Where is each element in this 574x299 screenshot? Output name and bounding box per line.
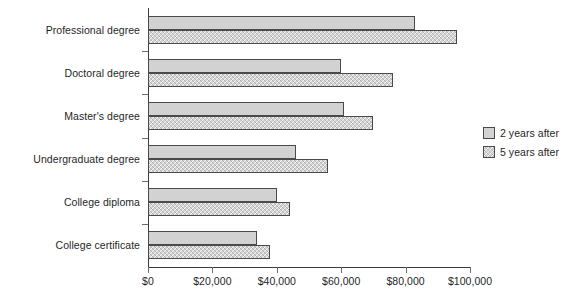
x-axis-label: $100,000 [448, 275, 492, 287]
bar[interactable] [148, 102, 344, 116]
y-axis-label: Undergraduate degree [0, 153, 140, 165]
bar[interactable] [148, 231, 257, 245]
x-axis-label: $40,000 [258, 275, 296, 287]
legend-swatch-5-years-after [483, 146, 495, 158]
legend-label-0: 2 years after [500, 127, 559, 139]
bar[interactable] [148, 145, 296, 159]
y-axis-label: College diploma [0, 196, 140, 208]
chart-legend: 2 years after 5 years after [483, 123, 559, 161]
bar[interactable] [148, 202, 290, 216]
legend-swatch-2-years-after [483, 127, 495, 139]
y-axis-label: College certificate [0, 239, 140, 251]
bar[interactable] [148, 159, 328, 173]
bar-chart: Professional degreeDoctoral degreeMaster… [0, 0, 574, 299]
legend-item-1[interactable]: 5 years after [483, 142, 559, 161]
bar[interactable] [148, 59, 341, 73]
bar[interactable] [148, 73, 393, 87]
x-axis-label: $20,000 [193, 275, 231, 287]
bar[interactable] [148, 16, 415, 30]
x-axis-tick [277, 267, 278, 273]
x-axis-tick [212, 267, 213, 273]
bar[interactable] [148, 188, 277, 202]
x-axis-label: $60,000 [322, 275, 360, 287]
x-axis-tick [148, 267, 149, 273]
plot-area [148, 8, 470, 267]
bar[interactable] [148, 30, 457, 44]
y-axis-labels: Professional degreeDoctoral degreeMaster… [0, 8, 140, 267]
y-axis-label: Doctoral degree [0, 67, 140, 79]
x-axis-label: $80,000 [386, 275, 424, 287]
x-axis-tick [406, 267, 407, 273]
x-axis-tick [470, 267, 471, 273]
x-axis-tick [341, 267, 342, 273]
bar[interactable] [148, 116, 373, 130]
x-axis-line [148, 267, 471, 268]
legend-label-1: 5 years after [500, 146, 559, 158]
x-axis-label: $0 [142, 275, 154, 287]
bar[interactable] [148, 245, 270, 259]
y-axis-label: Professional degree [0, 24, 140, 36]
y-axis-label: Master's degree [0, 110, 140, 122]
legend-item-0[interactable]: 2 years after [483, 123, 559, 142]
